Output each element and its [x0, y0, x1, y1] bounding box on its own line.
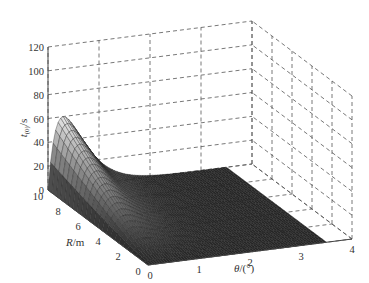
x-axis-label: θ/(°)	[234, 262, 255, 275]
y-tick: 0	[135, 266, 140, 277]
x-tick: 0	[147, 270, 152, 281]
y-tick: 4	[95, 236, 101, 247]
surface-plot: 020406080100120024681001234 t(0)/s R/m θ…	[0, 0, 369, 283]
y-tick: 10	[33, 191, 44, 202]
x-tick: 3	[298, 251, 303, 262]
z-tick: 120	[28, 42, 44, 53]
z-tick: 40	[34, 137, 45, 148]
z-tick: 80	[34, 90, 45, 101]
x-tick: 1	[196, 264, 201, 275]
z-tick: 60	[34, 114, 45, 125]
z-axis-label: t(0)/s	[17, 119, 31, 138]
y-tick: 8	[55, 206, 60, 217]
y-axis-label: R/m	[65, 236, 85, 248]
z-tick: 20	[34, 161, 45, 172]
z-tick: 100	[28, 66, 44, 77]
surface-mesh	[48, 117, 327, 265]
x-tick: 4	[349, 244, 355, 255]
y-tick: 6	[75, 221, 80, 232]
y-tick: 2	[115, 251, 120, 262]
